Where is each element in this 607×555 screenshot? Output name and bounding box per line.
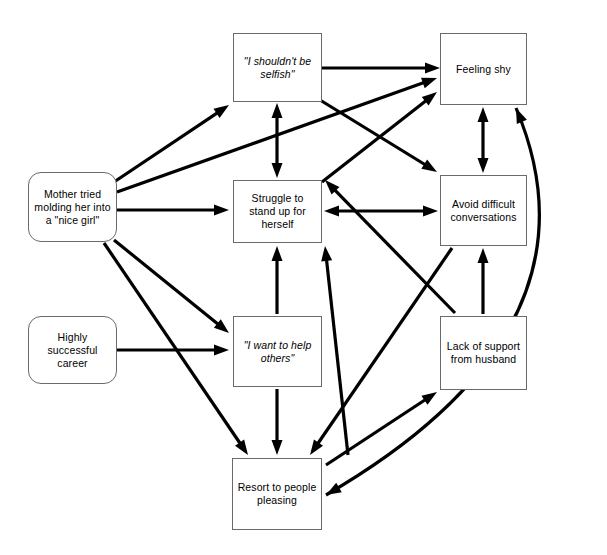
arrowhead <box>272 246 283 261</box>
node-lack-of-support-husband[interactable]: Lack of support from husband <box>440 316 527 390</box>
arrowhead <box>478 158 489 173</box>
node-highly-successful-career[interactable]: Highly successful career <box>28 316 117 384</box>
node-resort-to-people-pleasing[interactable]: Resort to people pleasing <box>232 458 322 530</box>
edge-line <box>332 187 455 313</box>
arrowhead <box>478 248 489 263</box>
arrowhead <box>421 392 437 405</box>
edge-line <box>104 243 242 447</box>
arrowhead <box>478 107 489 122</box>
arrowhead <box>213 105 229 118</box>
edge-feeling-shy-to-resort-to-people-pleasing <box>326 108 539 495</box>
arrowhead <box>423 206 438 217</box>
arrowhead <box>326 483 342 495</box>
arrowhead <box>272 440 283 455</box>
arrowhead <box>310 440 323 455</box>
arrowhead <box>421 78 437 88</box>
arrowhead <box>214 345 229 356</box>
node-feeling-shy[interactable]: Feeling shy <box>440 33 527 105</box>
node-label: Lack of support from husband <box>441 340 526 366</box>
node-label: Highly successful career <box>29 331 116 370</box>
node-label: Resort to people pleasing <box>233 481 321 507</box>
arrowhead <box>425 63 440 74</box>
arrowhead <box>321 246 332 262</box>
arrowhead <box>272 103 283 118</box>
edge-line <box>326 108 539 495</box>
node-should-not-be-selfish[interactable]: "I shouldn't be selfish" <box>233 33 322 102</box>
edge-mother-nice-girl-to-resort-to-people-pleasing <box>104 243 242 447</box>
node-avoid-difficult-conversations[interactable]: Avoid difficult conversations <box>440 175 527 246</box>
node-label: "I shouldn't be selfish" <box>234 55 321 81</box>
edge-mother-nice-girl-to-should-not-be-selfish <box>114 111 221 182</box>
node-label: Mother tried molding her into a "nice gi… <box>29 188 116 227</box>
arrowhead <box>516 108 527 124</box>
node-label: Struggle to stand up for herself <box>234 192 321 231</box>
node-label: Avoid difficult conversations <box>441 198 526 224</box>
node-want-to-help-others[interactable]: "I want to help others" <box>233 316 322 387</box>
arrowhead <box>214 205 229 216</box>
node-struggle-stand-up[interactable]: Struggle to stand up for herself <box>233 180 322 243</box>
diagram-canvas: "I shouldn't be selfish" Feeling shy Mot… <box>0 0 607 555</box>
arrowhead <box>235 440 248 455</box>
arrowhead <box>272 163 283 178</box>
node-label: "I want to help others" <box>234 339 321 365</box>
edge-lack-of-support-husband-to-struggle-stand-up <box>332 187 455 313</box>
arrowhead <box>421 159 437 172</box>
node-mother-nice-girl[interactable]: Mother tried molding her into a "nice gi… <box>28 172 117 242</box>
edge-line <box>114 111 221 182</box>
arrowhead <box>324 206 339 217</box>
node-label: Feeling shy <box>453 63 514 76</box>
